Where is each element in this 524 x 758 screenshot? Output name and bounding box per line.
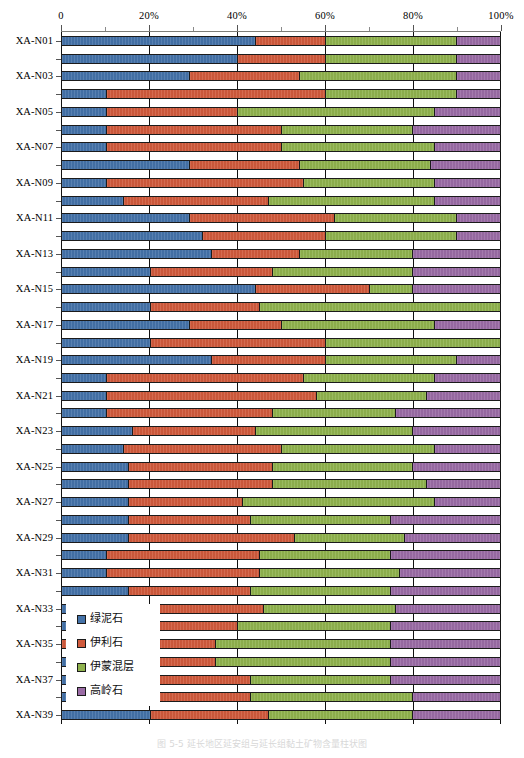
bar-segment-3[interactable] (215, 658, 390, 666)
bar-segment-3[interactable] (259, 551, 390, 559)
bar-segment-4[interactable] (412, 427, 500, 435)
bar-segment-4[interactable] (390, 640, 500, 648)
bar-segment-2[interactable] (123, 197, 268, 205)
bar-segment-4[interactable] (456, 55, 500, 63)
bar-segment-1[interactable] (62, 551, 106, 559)
bar-segment-2[interactable] (128, 534, 294, 542)
bar-segment-3[interactable] (237, 622, 390, 630)
legend-item[interactable]: 伊蒙混层 (69, 655, 159, 679)
bar-segment-1[interactable] (62, 534, 128, 542)
bar-segment-3[interactable] (316, 392, 426, 400)
bar-segment-1[interactable] (62, 108, 106, 116)
bar-segment-4[interactable] (456, 232, 500, 240)
stacked-bar[interactable] (61, 515, 501, 525)
bar-segment-1[interactable] (62, 250, 211, 258)
bar-segment-4[interactable] (456, 356, 500, 364)
bar-segment-3[interactable] (250, 676, 390, 684)
legend-item[interactable]: 绿泥石 (69, 607, 159, 631)
bar-segment-3[interactable] (272, 409, 395, 417)
bar-segment-2[interactable] (189, 72, 299, 80)
stacked-bar[interactable] (61, 36, 501, 46)
bar-segment-2[interactable] (189, 161, 299, 169)
stacked-bar[interactable] (61, 408, 501, 418)
bar-segment-1[interactable] (62, 197, 123, 205)
bar-segment-3[interactable] (268, 197, 434, 205)
bar-segment-1[interactable] (62, 498, 128, 506)
bar-segment-4[interactable] (412, 463, 500, 471)
bar-segment-1[interactable] (62, 143, 106, 151)
bar-segment-4[interactable] (456, 72, 500, 80)
bar-segment-2[interactable] (237, 55, 325, 63)
bar-segment-2[interactable] (150, 711, 268, 719)
bar-segment-2[interactable] (106, 569, 259, 577)
bar-segment-3[interactable] (325, 339, 500, 347)
stacked-bar[interactable] (61, 710, 501, 720)
bar-segment-2[interactable] (150, 303, 260, 311)
stacked-bar[interactable] (61, 426, 501, 436)
bar-segment-3[interactable] (215, 640, 390, 648)
bar-segment-4[interactable] (390, 587, 500, 595)
bar-segment-3[interactable] (299, 250, 413, 258)
bar-segment-4[interactable] (430, 161, 500, 169)
stacked-bar[interactable] (61, 160, 501, 170)
legend-item[interactable]: 高岭石 (69, 679, 159, 703)
bar-segment-2[interactable] (150, 268, 273, 276)
bar-segment-2[interactable] (106, 143, 281, 151)
stacked-bar[interactable] (61, 497, 501, 507)
bar-segment-4[interactable] (412, 693, 500, 701)
bar-segment-1[interactable] (62, 587, 128, 595)
bar-segment-2[interactable] (128, 498, 242, 506)
bar-segment-3[interactable] (369, 285, 413, 293)
bar-segment-2[interactable] (211, 250, 299, 258)
bar-segment-1[interactable] (62, 179, 106, 187)
stacked-bar[interactable] (61, 125, 501, 135)
stacked-bar[interactable] (61, 54, 501, 64)
bar-segment-1[interactable] (62, 90, 106, 98)
bar-segment-4[interactable] (390, 676, 500, 684)
stacked-bar[interactable] (61, 338, 501, 348)
stacked-bar[interactable] (61, 213, 501, 223)
bar-segment-3[interactable] (303, 374, 434, 382)
bar-segment-1[interactable] (62, 285, 255, 293)
bar-segment-3[interactable] (325, 37, 456, 45)
legend-item[interactable]: 伊利石 (69, 631, 159, 655)
bar-segment-1[interactable] (62, 711, 150, 719)
bar-segment-2[interactable] (202, 232, 325, 240)
bar-segment-1[interactable] (62, 55, 237, 63)
bar-segment-3[interactable] (259, 303, 500, 311)
bar-segment-1[interactable] (62, 569, 106, 577)
bar-segment-2[interactable] (106, 392, 316, 400)
stacked-bar[interactable] (61, 178, 501, 188)
bar-segment-3[interactable] (334, 214, 457, 222)
bar-segment-2[interactable] (132, 427, 255, 435)
bar-segment-2[interactable] (128, 516, 251, 524)
stacked-bar[interactable] (61, 267, 501, 277)
bar-segment-2[interactable] (123, 445, 281, 453)
bar-segment-1[interactable] (62, 480, 128, 488)
bar-segment-4[interactable] (426, 480, 500, 488)
bar-segment-2[interactable] (189, 321, 281, 329)
bar-segment-4[interactable] (412, 126, 500, 134)
bar-segment-4[interactable] (412, 285, 500, 293)
bar-segment-3[interactable] (281, 445, 434, 453)
bar-segment-3[interactable] (272, 268, 412, 276)
bar-segment-1[interactable] (62, 356, 211, 364)
bar-segment-3[interactable] (281, 321, 434, 329)
bar-segment-1[interactable] (62, 321, 189, 329)
stacked-bar[interactable] (61, 479, 501, 489)
stacked-bar[interactable] (61, 586, 501, 596)
bar-segment-2[interactable] (150, 693, 251, 701)
bar-segment-4[interactable] (395, 605, 500, 613)
bar-segment-4[interactable] (390, 622, 500, 630)
bar-segment-4[interactable] (412, 250, 500, 258)
stacked-bar[interactable] (61, 462, 501, 472)
stacked-bar[interactable] (61, 196, 501, 206)
bar-segment-2[interactable] (106, 179, 303, 187)
bar-segment-4[interactable] (434, 498, 500, 506)
bar-segment-4[interactable] (434, 321, 500, 329)
stacked-bar[interactable] (61, 107, 501, 117)
bar-segment-1[interactable] (62, 214, 189, 222)
stacked-bar[interactable] (61, 89, 501, 99)
bar-segment-3[interactable] (263, 605, 394, 613)
stacked-bar[interactable] (61, 391, 501, 401)
